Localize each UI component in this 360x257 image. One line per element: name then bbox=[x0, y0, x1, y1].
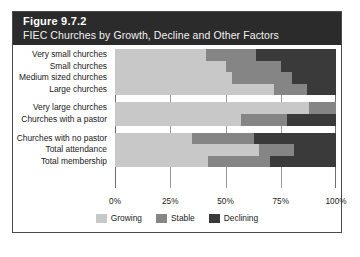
chart-legend: GrowingStableDeclining bbox=[13, 213, 341, 223]
plot-region: Very small churchesSmall churchesMedium … bbox=[13, 45, 341, 234]
bar-segment-growing bbox=[115, 156, 208, 168]
category-axis-labels: Very small churchesSmall churchesMedium … bbox=[13, 49, 111, 167]
bar-segment-growing bbox=[115, 114, 241, 126]
bar-segment-declining bbox=[270, 156, 336, 168]
legend-swatch-stable bbox=[156, 214, 167, 223]
bar-row bbox=[115, 72, 336, 84]
bar-segment-declining bbox=[256, 49, 336, 61]
bar-row bbox=[115, 114, 336, 126]
figure-subtitle: FIEC Churches by Growth, Decline and Oth… bbox=[23, 28, 341, 42]
legend-item: Growing bbox=[96, 213, 142, 223]
bar-segment-growing bbox=[115, 84, 274, 96]
bar-segment-declining bbox=[294, 144, 336, 156]
bar-segment-stable bbox=[274, 84, 307, 96]
x-axis-labels: 0%25%50%75%100% bbox=[115, 197, 336, 209]
bar-segment-stable bbox=[309, 102, 336, 114]
category-label: Total membership bbox=[13, 156, 111, 168]
bar-segment-growing bbox=[115, 144, 259, 156]
x-axis-tick-label: 75% bbox=[273, 197, 289, 206]
category-label: Small churches bbox=[13, 61, 111, 73]
legend-swatch-declining bbox=[209, 214, 220, 223]
bar-row bbox=[115, 102, 336, 114]
x-axis-tick-label: 25% bbox=[162, 197, 178, 206]
legend-item: Stable bbox=[156, 213, 195, 223]
bar-row bbox=[115, 61, 336, 73]
bar-segment-growing bbox=[115, 61, 226, 73]
bar-segment-declining bbox=[307, 84, 336, 96]
x-axis-tick-label: 0% bbox=[109, 197, 121, 206]
bar-row bbox=[115, 156, 336, 168]
category-label: Medium sized churches bbox=[13, 72, 111, 84]
bar-segment-stable bbox=[232, 72, 292, 84]
bar-segment-declining bbox=[287, 114, 336, 126]
figure-frame: Figure 9.7.2 FIEC Churches by Growth, De… bbox=[12, 11, 342, 233]
figure-number: Figure 9.7.2 bbox=[23, 15, 341, 28]
legend-label: Declining bbox=[224, 213, 258, 223]
figure-header: Figure 9.7.2 FIEC Churches by Growth, De… bbox=[13, 12, 341, 45]
bar-segment-growing bbox=[115, 102, 309, 114]
bar-row bbox=[115, 49, 336, 61]
category-label: Very small churches bbox=[13, 49, 111, 61]
bar-segment-growing bbox=[115, 72, 232, 84]
bar-segment-stable bbox=[192, 133, 254, 145]
bars-area bbox=[115, 49, 336, 195]
category-label: Total attendance bbox=[13, 144, 111, 156]
legend-swatch-growing bbox=[96, 214, 107, 223]
category-label: Very large churches bbox=[13, 102, 111, 114]
bar-segment-stable bbox=[226, 61, 281, 73]
category-label: Churches with a pastor bbox=[13, 114, 111, 126]
bar-segment-growing bbox=[115, 49, 206, 61]
bar-segment-declining bbox=[254, 133, 336, 145]
legend-item: Declining bbox=[209, 213, 258, 223]
bar-row bbox=[115, 133, 336, 145]
bar-row bbox=[115, 84, 336, 96]
bar-segment-stable bbox=[208, 156, 270, 168]
bar-segment-growing bbox=[115, 133, 192, 145]
legend-label: Growing bbox=[111, 213, 142, 223]
bar-segment-stable bbox=[259, 144, 294, 156]
category-label: Churches with no pastor bbox=[13, 133, 111, 145]
bar-segment-stable bbox=[206, 49, 257, 61]
category-label: Large churches bbox=[13, 84, 111, 96]
x-axis-tick-label: 100% bbox=[326, 197, 347, 206]
bar-row bbox=[115, 144, 336, 156]
bar-segment-declining bbox=[292, 72, 336, 84]
bar-rows bbox=[115, 49, 336, 167]
x-axis-tick-label: 50% bbox=[217, 197, 233, 206]
legend-label: Stable bbox=[171, 213, 195, 223]
bar-segment-stable bbox=[241, 114, 287, 126]
bar-segment-declining bbox=[281, 61, 336, 73]
